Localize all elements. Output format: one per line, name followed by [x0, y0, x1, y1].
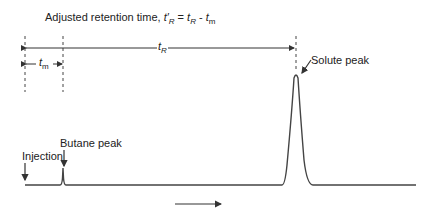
solute-arrow — [302, 60, 311, 73]
solute-peak-label: Solute peak — [311, 54, 369, 66]
tr-label: tR — [157, 40, 168, 55]
t-m-sub: m — [209, 17, 216, 26]
chromatogram-graphic — [0, 0, 442, 215]
tm-label: tm — [39, 56, 49, 71]
butane-peak-label: Butane peak — [60, 137, 122, 149]
equals: = — [175, 11, 188, 23]
tm-sub: m — [42, 62, 49, 71]
minus: - — [196, 11, 206, 23]
title-equation: Adjusted retention time, t′R = tR - tm — [45, 11, 215, 26]
title-prefix: Adjusted retention time, — [45, 11, 164, 23]
injection-label: Injection — [22, 150, 63, 162]
tr-sub: R — [161, 46, 167, 55]
chromatogram-trace — [25, 75, 416, 185]
